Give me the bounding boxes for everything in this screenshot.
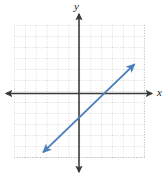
coordinate-plane-figure: y x: [0, 0, 167, 181]
x-axis-label: x: [157, 87, 162, 98]
y-axis-label: y: [74, 1, 79, 12]
graph-canvas: [0, 0, 167, 181]
